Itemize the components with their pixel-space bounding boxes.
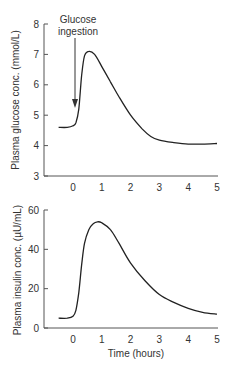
insulin-ytick-label: 40 (28, 244, 40, 255)
glucose-ytick-label: 4 (33, 140, 39, 151)
glucose-ytick-label: 7 (33, 49, 39, 60)
insulin-ytick-label: 0 (33, 323, 39, 334)
arrow-down-icon (72, 38, 78, 108)
annotation-glucose-line2: ingestion (58, 26, 98, 37)
glucose-xtick-label: 5 (214, 182, 220, 193)
glucose-xtick-label: 3 (157, 182, 163, 193)
insulin-curve (59, 222, 217, 319)
glucose-xtick-label: 4 (185, 182, 191, 193)
insulin-ytick-label: 20 (28, 283, 40, 294)
x-axis-title: Time (hours) (108, 348, 164, 359)
glucose-xtick-label: 1 (99, 182, 105, 193)
insulin-xtick-label: 5 (214, 334, 220, 345)
insulin-ytick-label: 60 (28, 205, 40, 216)
glucose-ytick-label: 8 (33, 19, 39, 30)
annotation-glucose-line1: Glucose (60, 14, 97, 25)
glucose-ytick-label: 6 (33, 79, 39, 90)
glucose-xtick-label: 0 (70, 182, 76, 193)
glucose-ytick-label: 3 (33, 171, 39, 182)
insulin-xtick-label: 3 (157, 334, 163, 345)
insulin-y-axis-title: Plasma insulin conc. (µU/mL) (12, 205, 23, 335)
insulin-xtick-label: 0 (70, 334, 76, 345)
insulin-xtick-label: 2 (128, 334, 134, 345)
insulin-chart: 0204060 012345 Plasma insulin conc. (µU/… (12, 205, 220, 360)
glucose-ytick-label: 5 (33, 110, 39, 121)
figure: 345678 012345 Plasma glucose conc. (mmol… (0, 0, 236, 371)
glucose-xtick-label: 2 (128, 182, 134, 193)
insulin-xtick-label: 4 (185, 334, 191, 345)
glucose-chart: 345678 012345 Plasma glucose conc. (mmol… (10, 14, 220, 193)
insulin-xtick-label: 1 (99, 334, 105, 345)
glucose-y-axis-title: Plasma glucose conc. (mmol/L) (10, 30, 21, 170)
glucose-curve (59, 51, 217, 144)
